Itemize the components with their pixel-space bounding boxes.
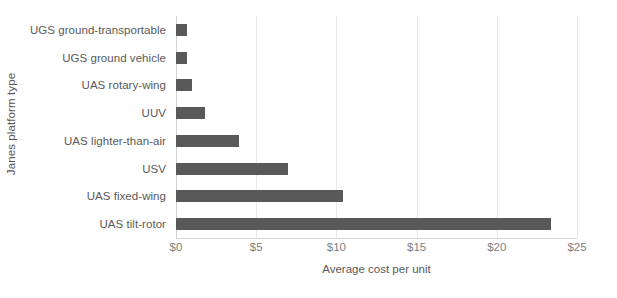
bar-row[interactable] [176, 99, 205, 127]
bar-chart: Janes platform type UGS ground-transport… [0, 0, 617, 298]
bar[interactable] [176, 52, 187, 64]
bar-row[interactable] [176, 16, 187, 44]
gridline [577, 16, 578, 238]
y-axis-tick-label: UAS tilt-rotor [99, 210, 166, 238]
y-axis-tick-label: UGS ground-transportable [30, 16, 166, 44]
y-axis-tick-label: UUV [142, 99, 166, 127]
y-axis-category-labels: UGS ground-transportableUGS ground vehic… [18, 16, 172, 238]
y-axis-tick-label: UAS lighter-than-air [64, 127, 166, 155]
bar-row[interactable] [176, 127, 239, 155]
bar[interactable] [176, 218, 551, 230]
x-axis-tick-labels: $0$5$10$15$20$25 [176, 241, 577, 259]
x-axis-line [176, 238, 577, 239]
y-axis-tick-label: USV [142, 155, 166, 183]
bar[interactable] [176, 79, 192, 91]
bar[interactable] [176, 24, 187, 36]
y-axis-title-label: Janes platform type [5, 73, 17, 175]
x-axis-tick-label: $5 [250, 241, 263, 253]
bar[interactable] [176, 163, 288, 175]
chart-title [0, 0, 617, 7]
bar-row[interactable] [176, 183, 343, 211]
bar-row[interactable] [176, 210, 551, 238]
x-axis-title: Average cost per unit [176, 263, 577, 275]
x-axis-tick-label: $20 [487, 241, 506, 253]
bar-series [176, 16, 577, 238]
bar[interactable] [176, 107, 205, 119]
bar-row[interactable] [176, 44, 187, 72]
bar[interactable] [176, 190, 343, 202]
bar-row[interactable] [176, 72, 192, 100]
x-axis-tick-label: $25 [567, 241, 586, 253]
y-axis-tick-label: UGS ground vehicle [62, 44, 166, 72]
y-axis-tick-label: UAS fixed-wing [87, 183, 166, 211]
plot-area [176, 16, 577, 238]
y-axis-tick-label: UAS rotary-wing [82, 72, 166, 100]
bar[interactable] [176, 135, 239, 147]
x-axis-tick-label: $10 [327, 241, 346, 253]
x-axis-tick-label: $0 [170, 241, 183, 253]
x-axis-tick-label: $15 [407, 241, 426, 253]
bar-row[interactable] [176, 155, 288, 183]
